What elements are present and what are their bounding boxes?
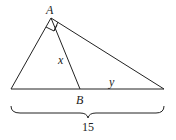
right-triangle (11, 18, 164, 89)
label-x: x (57, 53, 64, 67)
label-y: y (108, 75, 115, 89)
label-a: A (45, 3, 54, 17)
brace (11, 106, 164, 118)
triangle-diagram: A x y B 15 (0, 0, 176, 140)
label-15: 15 (82, 120, 94, 134)
label-b: B (76, 93, 84, 107)
